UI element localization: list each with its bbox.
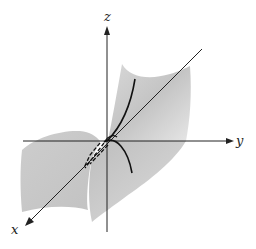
saddle-surface-diagram: z y x — [0, 0, 256, 249]
z-axis-label: z — [104, 10, 111, 23]
z-axis-arrow-icon — [104, 26, 110, 35]
y-axis-label: y — [236, 134, 243, 147]
x-axis-label: x — [11, 223, 18, 236]
surface-left — [21, 131, 101, 212]
surface-lower — [89, 141, 186, 222]
y-axis-arrow-icon — [226, 138, 234, 144]
surface-upper-right — [108, 64, 191, 141]
diagram-canvas — [0, 0, 256, 249]
